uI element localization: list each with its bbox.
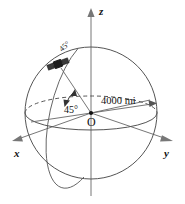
axis-label-z: z (98, 5, 104, 17)
axis-z (87, 8, 94, 196)
meridian-great-circle (46, 49, 84, 189)
sphere-diagram-canvas: z x y O 4000 mi 45° 45° (0, 0, 185, 204)
axis-y (91, 113, 173, 142)
tilt-angle-label: 45° (57, 39, 71, 53)
sphere-diagram-figure: z x y O 4000 mi 45° 45° (0, 0, 185, 204)
elevation-angle-label: 45° (64, 104, 78, 115)
origin-label: O (87, 115, 96, 129)
radius-dimension-label: 4000 mi (101, 95, 136, 106)
chord-left (31, 113, 91, 122)
axis-x (12, 113, 91, 142)
satellite-icon (46, 57, 69, 71)
axis-label-x: x (13, 147, 20, 159)
axis-label-y: y (162, 147, 169, 159)
